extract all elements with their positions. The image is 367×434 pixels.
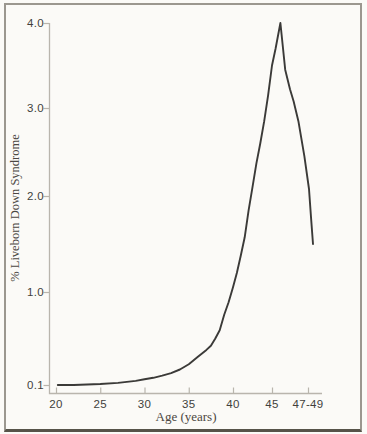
axis-spine xyxy=(50,23,323,394)
line-chart xyxy=(0,0,367,434)
data-series-line xyxy=(58,23,313,385)
